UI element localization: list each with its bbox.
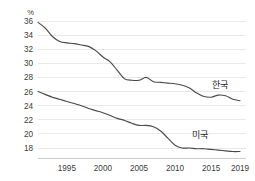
y-axis-tick-label: 24	[24, 102, 34, 111]
series-line-usa	[38, 92, 240, 152]
line-chart: 36343230282624222018 1995200020052010201…	[0, 0, 255, 181]
y-axis-tick-label: 28	[24, 73, 34, 82]
y-axis-tick-label: 34	[24, 31, 34, 40]
y-axis-tick-label: 36	[24, 17, 34, 26]
y-axis-tick-label: 18	[24, 144, 34, 153]
x-axis-tick-label: 1995	[58, 164, 77, 173]
series-label-korea: 한국	[212, 80, 228, 90]
x-axis-tick-label: 2010	[166, 164, 185, 173]
x-axis-tick-label: 2000	[94, 164, 113, 173]
y-axis-tick-labels: 36343230282624222018	[24, 17, 34, 153]
y-axis-tick-label: 26	[24, 88, 34, 97]
series-line-korea	[38, 22, 240, 100]
y-axis-tick-label: 30	[24, 59, 34, 68]
y-axis-tick-label: 32	[24, 45, 34, 54]
x-axis-tick-label: 2005	[130, 164, 149, 173]
series-label-usa: 미국	[192, 130, 208, 140]
x-axis-tick-labels: 199520002005201020152019	[58, 164, 250, 173]
y-axis-tick-label: 22	[24, 116, 34, 125]
x-axis-tick-label: 2019	[231, 164, 250, 173]
y-axis-tick-label: 20	[24, 130, 34, 139]
chart-container: 36343230282624222018 1995200020052010201…	[0, 0, 255, 181]
series-labels: 한국미국	[192, 80, 228, 140]
data-series	[38, 22, 240, 151]
y-axis-unit-label: %	[27, 8, 34, 17]
x-axis-tick-label: 2015	[202, 164, 221, 173]
